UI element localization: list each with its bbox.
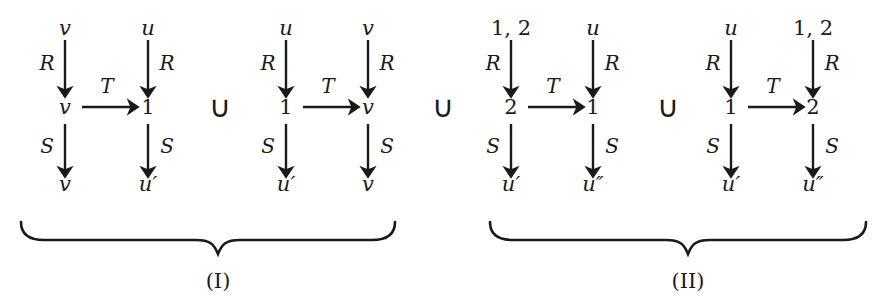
square-2-top-right: v	[362, 18, 374, 39]
square-3-right-lower-label: S	[605, 136, 619, 156]
square-4-right-upper-label: R	[824, 53, 839, 73]
square-1-top-left: v	[59, 18, 71, 39]
square-4-left-lower-label: S	[706, 136, 720, 156]
square-2-horizontal-label: T	[321, 76, 334, 96]
square-3-horizontal-label: T	[546, 76, 559, 96]
diagram-strokes	[0, 0, 881, 306]
square-2-left-upper-label: R	[260, 53, 275, 73]
square-1-mid-left: v	[59, 97, 71, 118]
underbrace-I	[21, 222, 395, 254]
square-2-mid-right: v	[362, 97, 374, 118]
square-4-horizontal-label: T	[766, 76, 779, 96]
square-2-bottom-right: v	[362, 174, 374, 195]
square-1-right-lower-label: S	[160, 136, 174, 156]
square-3-mid-right: 1	[586, 97, 599, 118]
union-symbol-2: ∪	[432, 92, 454, 122]
square-3-bottom-right: u″	[582, 174, 603, 195]
square-4-top-right: 1, 2	[793, 18, 833, 39]
brace-caption-I: (I)	[206, 271, 231, 292]
square-2-right-upper-label: R	[379, 53, 394, 73]
square-2-right-lower-label: S	[380, 136, 394, 156]
underbrace-II	[490, 222, 866, 254]
square-4-bottom-left: u′	[722, 174, 740, 195]
square-3-right-upper-label: R	[604, 53, 619, 73]
square-1-left-lower-label: S	[40, 136, 54, 156]
square-3-top-left: 1, 2	[491, 18, 531, 39]
square-1-bottom-left: v	[59, 174, 71, 195]
square-1-left-upper-label: R	[39, 53, 54, 73]
square-4-right-lower-label: S	[825, 136, 839, 156]
square-2-bottom-left: u′	[277, 174, 295, 195]
union-symbol-3: ∪	[657, 92, 679, 122]
square-4-mid-left: 1	[724, 97, 737, 118]
square-2-top-left: u	[279, 18, 293, 39]
square-1-bottom-right: u′	[139, 174, 157, 195]
square-3-bottom-left: u′	[502, 174, 520, 195]
square-1-mid-right: 1	[141, 97, 154, 118]
square-4-bottom-right: u″	[802, 174, 823, 195]
square-1-top-right: u	[141, 18, 155, 39]
square-4-top-left: u	[724, 18, 738, 39]
square-4-left-upper-label: R	[705, 53, 720, 73]
square-2-left-lower-label: S	[261, 136, 275, 156]
square-2-mid-left: 1	[279, 97, 292, 118]
square-1-right-upper-label: R	[159, 53, 174, 73]
square-1-horizontal-label: T	[100, 76, 113, 96]
brace-caption-II: (II)	[672, 271, 705, 292]
square-3-left-upper-label: R	[485, 53, 500, 73]
square-3-mid-left: 2	[504, 97, 517, 118]
square-3-top-right: u	[586, 18, 600, 39]
square-4-mid-right: 2	[806, 97, 819, 118]
diagram-figure: v u v 1 v u′ R R S S T ∪ u v 1 v u′ v R …	[0, 0, 881, 306]
square-3-left-lower-label: S	[486, 136, 500, 156]
union-symbol-1: ∪	[209, 92, 231, 122]
